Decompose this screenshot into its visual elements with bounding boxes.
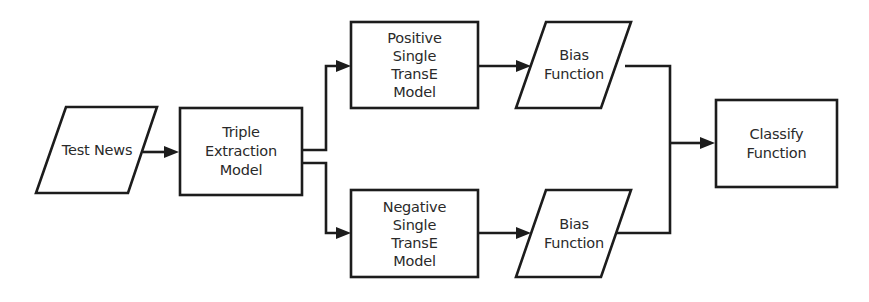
- arrow-bias-merge-to-classify: [617, 66, 715, 233]
- arrowhead-icon: [336, 227, 351, 239]
- node-label-line: TransE: [391, 234, 437, 252]
- node-label-line: Extraction: [205, 142, 277, 161]
- node-label-line: Positive: [387, 29, 441, 47]
- classify-function-node: Classify Function: [716, 100, 837, 187]
- node-label-line: Function: [544, 65, 604, 84]
- positive-transe-node: Positive Single TransE Model: [351, 22, 478, 108]
- test-news-node: Test News: [46, 107, 148, 193]
- bias-function-bottom-node: Bias Function: [527, 190, 621, 277]
- node-label-line: Function: [544, 234, 604, 253]
- negative-transe-node: Negative Single TransE Model: [351, 190, 478, 277]
- arrowhead-icon: [700, 137, 715, 149]
- node-label-line: Model: [393, 83, 436, 101]
- node-label-line: Single: [393, 47, 436, 65]
- arrow-triple-to-positive: [302, 60, 351, 150]
- arrowhead-icon: [336, 60, 351, 72]
- node-label-line: Negative: [383, 198, 446, 216]
- node-label-line: Function: [746, 144, 806, 163]
- arrow-positive-to-bias-top: [478, 60, 531, 72]
- node-label-line: Triple: [222, 123, 260, 142]
- node-label-line: Test News: [62, 141, 133, 160]
- node-label-line: Model: [393, 252, 436, 270]
- node-label-line: Model: [220, 161, 263, 180]
- arrow-negative-to-bias-bottom: [478, 227, 531, 239]
- node-label-line: Bias: [559, 46, 589, 65]
- triple-extraction-node: Triple Extraction Model: [180, 108, 302, 195]
- node-label-line: Bias: [559, 215, 589, 234]
- bias-function-top-node: Bias Function: [527, 22, 621, 108]
- node-label-line: TransE: [391, 65, 437, 83]
- arrowhead-icon: [164, 146, 179, 158]
- node-label-line: Single: [393, 216, 436, 234]
- arrow-triple-to-negative: [302, 163, 351, 239]
- node-label-line: Classify: [749, 125, 803, 144]
- arrow-test-news-to-triple: [143, 146, 179, 158]
